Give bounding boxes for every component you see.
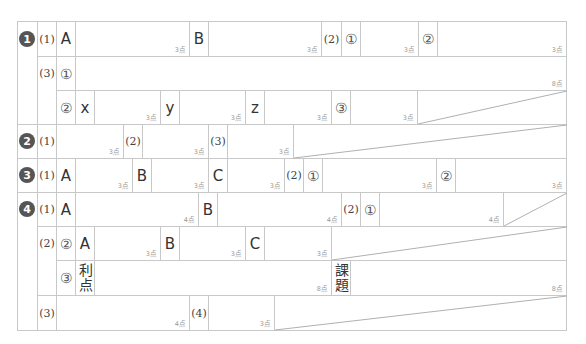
q1-3-2-x-answer[interactable]: 3点 xyxy=(94,90,161,125)
q4-1-A-answer[interactable]: 4点 xyxy=(75,192,199,227)
q3-1-B-label: B xyxy=(132,158,152,193)
q3-1-A-answer[interactable]: 3点 xyxy=(75,158,133,193)
q2-unused-area xyxy=(293,124,567,159)
q4-2-1-answer[interactable]: 4点 xyxy=(379,192,504,227)
q4-3-label: (3) xyxy=(37,295,57,331)
q3-badge: 3 xyxy=(19,167,35,183)
q4-2-2-C-label: C xyxy=(245,226,265,261)
q1-badge: 1 xyxy=(19,31,35,47)
q1-3-1-label: ① xyxy=(56,56,76,91)
q4-2-3-label: ③ xyxy=(56,260,76,296)
q4-3-answer[interactable]: 4点 xyxy=(56,295,190,331)
q2-badge: 2 xyxy=(19,133,35,149)
q2-1-label: (1) xyxy=(37,124,57,159)
q1-1-A-label: A xyxy=(56,21,76,57)
q1-2-2-label: ② xyxy=(418,21,438,57)
q2-3-answer[interactable]: 3点 xyxy=(227,124,294,159)
q1-3-1-answer[interactable]: 8点 xyxy=(75,56,567,91)
q1-3-2-x-label: x xyxy=(75,90,95,125)
q1-3-2-z-label: z xyxy=(245,90,265,125)
q4-1-A-label: A xyxy=(56,192,76,227)
q1-unused-area xyxy=(417,90,567,125)
q3-1-B-answer[interactable]: 3点 xyxy=(151,158,209,193)
q3-1-C-answer[interactable]: 3点 xyxy=(227,158,285,193)
q4-2-3-issue-label: 課題 xyxy=(331,260,351,296)
q4-2-2-label: ② xyxy=(56,226,76,261)
q1-3-2-y-answer[interactable]: 3点 xyxy=(179,90,246,125)
q1-1-A-answer[interactable]: 3点 xyxy=(75,21,190,57)
q4-2-2-B-answer[interactable]: 3点 xyxy=(179,226,246,261)
q4-2-3-issue-answer[interactable]: 8点 xyxy=(350,260,567,296)
q1-1-B-label: B xyxy=(189,21,209,57)
q4-2-3-merit-answer[interactable]: 8点 xyxy=(94,260,332,296)
q1-3-3-answer[interactable]: 3点 xyxy=(350,90,418,125)
q4-2-1-label: ① xyxy=(360,192,380,227)
q3-2-label: (2) xyxy=(284,158,304,193)
q2-1-answer[interactable]: 3点 xyxy=(56,124,124,159)
q2-number-cell: 2 xyxy=(17,124,38,159)
q4-2-2-B-label: B xyxy=(160,226,180,261)
q3-2-2-answer[interactable]: 3点 xyxy=(455,158,567,193)
q3-2-1-label: ① xyxy=(303,158,323,193)
q4-2-3-merit-label: 利点 xyxy=(75,260,95,296)
q4-1-B-answer[interactable]: 4点 xyxy=(217,192,342,227)
q2-3-label: (3) xyxy=(208,124,228,159)
q4-2-2-unused-area xyxy=(331,226,567,261)
q4-3-unused-area xyxy=(274,295,567,331)
q1-3-label: (3) xyxy=(37,56,57,125)
q3-1-A-label: A xyxy=(56,158,76,193)
q4-1-label: (1) xyxy=(37,192,57,227)
q1-1-B-answer[interactable]: 3点 xyxy=(208,21,322,57)
q1-3-2-y-label: y xyxy=(160,90,180,125)
q4-2-label-inline: (2) xyxy=(341,192,361,227)
q4-4-label: (4) xyxy=(189,295,209,331)
q1-3-3-label: ③ xyxy=(331,90,351,125)
q3-number-cell: 3 xyxy=(17,158,38,193)
q4-2-label: (2) xyxy=(37,226,57,296)
q1-2-1-answer[interactable]: 3点 xyxy=(360,21,419,57)
q3-2-1-answer[interactable]: 3点 xyxy=(322,158,437,193)
q1-1-label: (1) xyxy=(37,21,57,57)
q4-2-2-A-answer[interactable]: 3点 xyxy=(94,226,161,261)
q4-badge: 4 xyxy=(19,201,35,217)
q3-1-label: (1) xyxy=(37,158,57,193)
q1-2-1-label: ① xyxy=(341,21,361,57)
q4-1-unused-area xyxy=(503,192,567,227)
q3-1-C-label: C xyxy=(208,158,228,193)
q1-3-2-label: ② xyxy=(56,90,76,125)
q4-1-B-label: B xyxy=(198,192,218,227)
q4-2-2-C-answer[interactable]: 3点 xyxy=(264,226,332,261)
q1-number-cell: 1 xyxy=(17,21,38,125)
q1-3-2-z-answer[interactable]: 3点 xyxy=(264,90,332,125)
q1-2-label: (2) xyxy=(321,21,342,57)
q1-2-2-answer[interactable]: 3点 xyxy=(437,21,567,57)
q2-2-label: (2) xyxy=(123,124,143,159)
q4-2-2-A-label: A xyxy=(75,226,95,261)
q4-number-cell: 4 xyxy=(17,192,38,331)
q2-2-answer[interactable]: 3点 xyxy=(142,124,209,159)
q4-4-answer[interactable]: 3点 xyxy=(208,295,275,331)
q3-2-2-label: ② xyxy=(436,158,456,193)
